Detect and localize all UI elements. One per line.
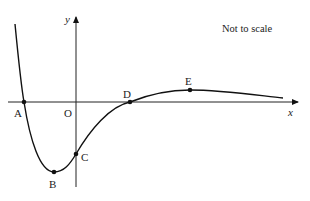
diagram-canvas: y x O A B C D E Not to scale <box>0 0 310 201</box>
point-d <box>128 100 133 105</box>
point-e <box>188 88 193 93</box>
function-curve <box>15 24 283 172</box>
curve-diagram: y x O A B C D E Not to scale <box>0 0 310 201</box>
point-b-label: B <box>49 178 56 190</box>
y-axis-label: y <box>64 13 70 25</box>
point-a <box>22 100 27 105</box>
x-axis-label: x <box>287 106 293 118</box>
point-b <box>52 170 57 175</box>
origin-label: O <box>64 107 72 119</box>
not-to-scale-note: Not to scale <box>222 23 272 34</box>
point-d-label: D <box>123 88 131 100</box>
point-c-label: C <box>81 151 88 163</box>
point-c <box>74 152 79 157</box>
point-e-label: E <box>185 75 192 87</box>
point-a-label: A <box>14 107 22 119</box>
